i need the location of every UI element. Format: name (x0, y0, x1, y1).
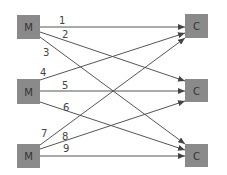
target-label: C (193, 151, 200, 162)
target-label: C (193, 86, 200, 97)
source-node-m1: M (17, 15, 40, 39)
edge-label: 4 (40, 67, 46, 78)
source-label: M (24, 22, 33, 33)
source-label: M (24, 87, 33, 98)
target-node-c2: C (185, 79, 208, 102)
edge-m2-c1 (40, 33, 185, 80)
edge-label: 8 (62, 131, 68, 142)
edge-label: 7 (41, 128, 47, 139)
edges-layer: 123456789 (40, 15, 185, 156)
edge-label: 9 (63, 143, 69, 154)
edge-label: 5 (62, 80, 68, 91)
source-node-m2: M (17, 79, 40, 104)
edge-label: 2 (62, 29, 68, 40)
bipartite-diagram: 123456789 MMMCCC (0, 0, 227, 175)
edge-label: 3 (43, 47, 49, 58)
edge-m2-c3 (40, 102, 185, 150)
source-label: M (24, 151, 33, 162)
edge-label: 6 (63, 102, 69, 113)
target-node-c1: C (185, 14, 208, 38)
edge-label: 1 (59, 15, 65, 26)
source-node-m3: M (17, 144, 40, 168)
target-node-c3: C (185, 144, 208, 167)
target-label: C (193, 21, 200, 32)
